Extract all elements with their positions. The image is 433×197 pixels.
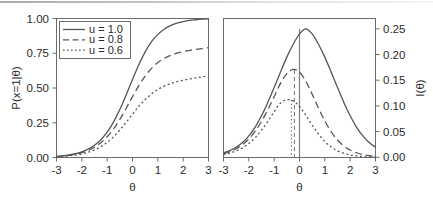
left-panel: 1.00 0.75 0.50 0.25 0.00 P(x=1|θ) -3 -2 …: [10, 13, 212, 194]
legend-label-u-0p6: u = 0.6: [89, 44, 123, 56]
right-ytick-label-015: 0.15: [383, 74, 405, 86]
left-xtick-label--3: -3: [51, 164, 61, 176]
left-xtick-label--2: -2: [77, 164, 87, 176]
left-y-axis-title: P(x=1|θ): [10, 66, 22, 110]
right-ytick-label-020: 0.20: [383, 49, 405, 61]
right-ytick-label-005: 0.05: [383, 126, 405, 138]
right-xtick-label--1: -1: [269, 164, 279, 176]
legend[interactable]: u = 1.0 u = 0.8 u = 0.6: [60, 22, 131, 59]
left-xtick-label-2: 2: [180, 164, 186, 176]
left-xtick-label--1: -1: [102, 164, 112, 176]
right-y-axis-title: I(θ): [414, 79, 426, 96]
right-panel: 0.25 0.20 0.15 0.10 0.05 0.00 I(θ) -3 -2…: [218, 19, 426, 194]
left-ytick-label-050: 0.50: [27, 82, 49, 94]
right-xtick-label-2: 2: [347, 164, 353, 176]
right-xtick-label--2: -2: [244, 164, 254, 176]
figure-container: 1.00 0.75 0.50 0.25 0.00 P(x=1|θ) -3 -2 …: [0, 0, 433, 197]
right-ytick-label-010: 0.10: [383, 100, 405, 112]
right-ytick-label-000: 0.00: [383, 151, 405, 163]
left-ytick-label-100: 1.00: [27, 13, 49, 25]
right-xtick-label-1: 1: [322, 164, 328, 176]
left-ytick-label-000: 0.00: [27, 152, 49, 164]
scan-artifact-line: [0, 1, 433, 3]
right-y-ticks: [376, 29, 380, 158]
right-xtick-label-0: 0: [296, 164, 302, 176]
left-x-axis-title: θ: [129, 181, 135, 193]
right-peak-markers: [291, 29, 299, 158]
left-ytick-label-075: 0.75: [27, 47, 49, 59]
left-xtick-label-0: 0: [129, 164, 135, 176]
left-ytick-label-025: 0.25: [27, 117, 49, 129]
curve-u-0p6-probability: [57, 76, 209, 157]
left-x-ticks: [57, 158, 209, 162]
left-y-ticks: [53, 19, 57, 158]
left-xtick-label-3: 3: [205, 164, 211, 176]
right-xtick-label--3: -3: [218, 164, 228, 176]
chart-svg: 1.00 0.75 0.50 0.25 0.00 P(x=1|θ) -3 -2 …: [0, 0, 433, 197]
left-xtick-label-1: 1: [155, 164, 161, 176]
right-x-axis-title: θ: [296, 181, 302, 193]
right-xtick-label-3: 3: [372, 164, 378, 176]
right-x-ticks: [224, 158, 376, 162]
curve-u-0p8-probability: [57, 48, 209, 157]
right-ytick-label-025: 0.25: [383, 23, 405, 35]
